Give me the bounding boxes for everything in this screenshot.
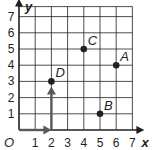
y-tick-label: 2 <box>8 91 15 105</box>
point-a <box>113 62 120 69</box>
coordinate-grid: yx 12345671234567O ABCD <box>0 0 157 150</box>
data-points: ABCD <box>48 33 129 117</box>
x-axis-arrow-icon <box>136 126 144 134</box>
path-arrows <box>19 86 56 134</box>
x-axis-label: x <box>140 135 149 150</box>
x-tick-label: 5 <box>97 136 104 150</box>
x-tick-label: 4 <box>80 136 87 150</box>
x-tick-label: 1 <box>32 136 39 150</box>
x-tick-label: 2 <box>48 136 55 150</box>
y-tick-label: 4 <box>8 58 15 72</box>
y-tick-label: 6 <box>8 26 15 40</box>
point-label-c: C <box>88 33 98 48</box>
x-tick-label: 3 <box>64 136 71 150</box>
y-axis-label: y <box>24 0 33 14</box>
y-tick-label: 3 <box>8 74 15 88</box>
point-label-b: B <box>104 98 113 113</box>
point-c <box>81 46 88 53</box>
point-d <box>48 78 55 85</box>
y-tick-label: 5 <box>8 42 15 56</box>
x-tick-label: 6 <box>113 136 120 150</box>
arrow-head-icon <box>47 86 56 94</box>
point-label-a: A <box>119 49 129 64</box>
origin-label: O <box>4 135 14 150</box>
y-tick-label: 1 <box>8 107 15 121</box>
point-b <box>97 111 104 118</box>
y-axis-arrow-icon <box>15 0 23 7</box>
x-tick-label: 7 <box>129 136 136 150</box>
y-tick-label: 7 <box>8 10 15 24</box>
point-label-d: D <box>55 65 64 80</box>
